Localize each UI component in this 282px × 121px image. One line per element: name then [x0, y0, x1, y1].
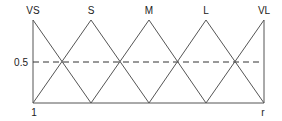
label-l: L	[203, 5, 209, 16]
x-right-label: r	[261, 107, 265, 118]
label-m: M	[145, 5, 153, 16]
y-tick-half: 0.5	[14, 57, 28, 68]
label-s: S	[88, 5, 95, 16]
x-left-label: 1	[31, 107, 37, 118]
label-vl: VL	[258, 5, 271, 16]
label-vs: VS	[26, 5, 40, 16]
membership-s	[33, 20, 149, 103]
membership-diagram: VS S M L VL 0.5 1 r	[0, 0, 282, 121]
